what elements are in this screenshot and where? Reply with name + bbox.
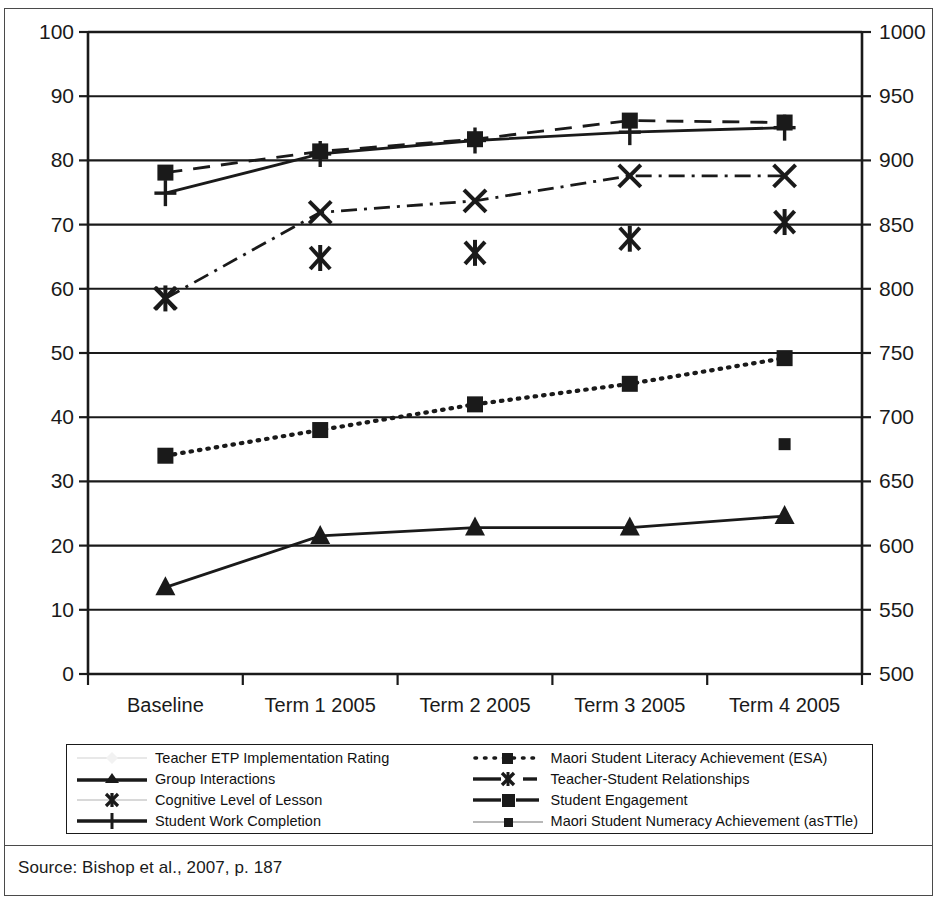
y-tick-right: 900	[879, 149, 939, 170]
legend-item-label: Maori Student Numeracy Achievement (asTT…	[551, 813, 859, 829]
chart-legend: Teacher ETP Implementation RatingMaori S…	[66, 744, 873, 834]
legend-item-work-completion[interactable]: Student Work Completion	[75, 810, 471, 831]
y-tick-right: 500	[879, 663, 939, 684]
data-point-square	[777, 115, 793, 131]
y-tick-left: 0	[12, 663, 74, 684]
data-point-small-square	[779, 438, 791, 450]
data-point-square	[777, 350, 793, 366]
legend-item-label: Student Engagement	[551, 792, 688, 808]
y-tick-left: 50	[12, 342, 74, 363]
y-tick-left: 70	[12, 214, 74, 235]
faint-line-star-icon	[75, 791, 149, 809]
y-tick-right: 850	[879, 214, 939, 235]
y-tick-right: 800	[879, 278, 939, 299]
legend-item-label: Teacher ETP Implementation Rating	[155, 750, 389, 766]
source-divider	[5, 845, 933, 846]
y-tick-left: 90	[12, 85, 74, 106]
y-tick-right: 1000	[879, 21, 939, 42]
series-7	[779, 438, 791, 450]
plot-canvas	[0, 0, 939, 740]
faint-line-diamond-icon	[75, 749, 149, 767]
solid-line-triangle-icon	[75, 770, 149, 788]
x-category-label: Term 3 2005	[552, 694, 707, 717]
legend-item-cognitive-level[interactable]: Cognitive Level of Lesson	[75, 789, 471, 810]
dashdot-line-x-icon	[471, 770, 545, 788]
data-point-square	[312, 422, 328, 438]
x-category-label: Term 1 2005	[243, 694, 398, 717]
series-5	[154, 165, 795, 310]
legend-grid: Teacher ETP Implementation RatingMaori S…	[67, 745, 872, 833]
x-category-label: Term 4 2005	[707, 694, 862, 717]
legend-item-label: Teacher-Student Relationships	[551, 771, 750, 787]
data-point-triangle	[775, 505, 795, 524]
y-tick-left: 10	[12, 599, 74, 620]
series-1	[155, 505, 794, 595]
line-chart: 0102030405060708090100 50055060065070075…	[0, 0, 939, 740]
legend-item-teacher-etp[interactable]: Teacher ETP Implementation Rating	[75, 747, 471, 768]
y-tick-right: 650	[879, 470, 939, 491]
data-point-square	[157, 165, 173, 181]
legend-item-relationships[interactable]: Teacher-Student Relationships	[471, 768, 867, 789]
data-point-triangle	[465, 517, 485, 536]
legend-item-engagement[interactable]: Student Engagement	[471, 789, 867, 810]
source-caption: Source: Bishop et al., 2007, p. 187	[18, 858, 282, 878]
legend-item-label: Student Work Completion	[155, 813, 321, 829]
x-category-label: Baseline	[88, 694, 243, 717]
data-point-square	[467, 131, 483, 147]
x-category-label: Term 2 2005	[398, 694, 553, 717]
chart-page: 0102030405060708090100 50055060065070075…	[0, 0, 939, 904]
legend-item-numeracy-asttle[interactable]: Maori Student Numeracy Achievement (asTT…	[471, 810, 867, 831]
dashed-line-square-icon	[471, 791, 545, 809]
y-tick-left: 40	[12, 406, 74, 427]
legend-item-label: Maori Student Literacy Achievement (ESA)	[551, 750, 828, 766]
data-point-square	[467, 396, 483, 412]
y-tick-right: 600	[879, 535, 939, 556]
solid-line-plus-icon	[75, 812, 149, 830]
dotted-line-square-icon	[471, 749, 545, 767]
data-point-square	[622, 376, 638, 392]
y-tick-right: 550	[879, 599, 939, 620]
y-tick-left: 60	[12, 278, 74, 299]
legend-item-group-interactions[interactable]: Group Interactions	[75, 768, 471, 789]
legend-item-label: Cognitive Level of Lesson	[155, 792, 322, 808]
data-point-square	[312, 143, 328, 159]
data-point-square	[157, 448, 173, 464]
series-4	[157, 350, 792, 464]
faint-line-smallsquare-icon	[471, 812, 545, 830]
series-line	[165, 176, 784, 299]
y-tick-right: 700	[879, 406, 939, 427]
y-tick-left: 20	[12, 535, 74, 556]
legend-item-literacy-esa[interactable]: Maori Student Literacy Achievement (ESA)	[471, 747, 867, 768]
legend-item-label: Group Interactions	[155, 771, 275, 787]
data-point-square	[622, 113, 638, 129]
y-tick-left: 100	[12, 21, 74, 42]
y-tick-right: 950	[879, 85, 939, 106]
y-tick-right: 750	[879, 342, 939, 363]
y-tick-left: 80	[12, 149, 74, 170]
y-tick-left: 30	[12, 470, 74, 491]
